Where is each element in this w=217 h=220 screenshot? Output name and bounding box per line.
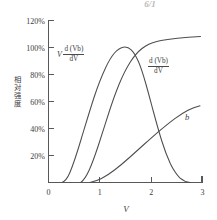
y-tick-label-40: 40% — [30, 125, 45, 134]
curve-label-dvb-dv: d (Vb)dV — [148, 57, 169, 76]
y-tick-label-20: 20% — [30, 152, 45, 161]
y-tick-label-80: 80% — [30, 71, 45, 80]
curve-label-d-denominator: dV — [148, 67, 169, 76]
curve-v-dvb-dv — [62, 47, 190, 182]
curve-label-d-numerator: d (Vb) — [148, 57, 169, 67]
chart-plot-area: 6/1 120% 100% 80% 60% 40% 20% 0 1 2 3 V — [0, 0, 217, 220]
curve-label-v-denominator: dV — [63, 55, 84, 64]
curve-dvb-dv — [81, 37, 201, 183]
y-tick-label-120: 120% — [26, 17, 45, 26]
y-axis-label-char-4: 度 — [14, 99, 22, 108]
curve-label-d-fraction: d (Vb)dV — [148, 57, 169, 76]
x-tick-label-3: 3 — [201, 188, 205, 197]
chart-figure: 6/1 120% 100% 80% 60% 40% 20% 0 1 2 3 V — [0, 0, 217, 220]
curve-b — [90, 106, 200, 183]
curve-label-v-dvb-dv: Vd (Vb)dV — [57, 45, 84, 64]
x-tick-label-2: 2 — [149, 188, 153, 197]
curve-label-v-numerator: d (Vb) — [63, 45, 84, 55]
x-tick-label-1: 1 — [98, 188, 102, 197]
curve-label-b: b — [185, 113, 189, 122]
y-tick-label-60: 60% — [30, 98, 45, 107]
x-tick-label-0: 0 — [47, 188, 51, 197]
y-axis-label: 相 对 强 度 — [14, 75, 22, 108]
y-tick-label-100: 100% — [26, 44, 45, 53]
curve-label-v-fraction: d (Vb)dV — [63, 45, 84, 64]
x-axis-label: V — [123, 204, 130, 214]
top-partial-text: 6/1 — [144, 0, 156, 9]
